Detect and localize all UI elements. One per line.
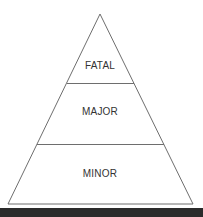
level-label-major: MAJOR bbox=[40, 106, 160, 117]
bottom-border-bar bbox=[0, 208, 203, 217]
level-label-minor: MINOR bbox=[40, 168, 160, 179]
level-label-fatal: FATAL bbox=[40, 60, 160, 71]
